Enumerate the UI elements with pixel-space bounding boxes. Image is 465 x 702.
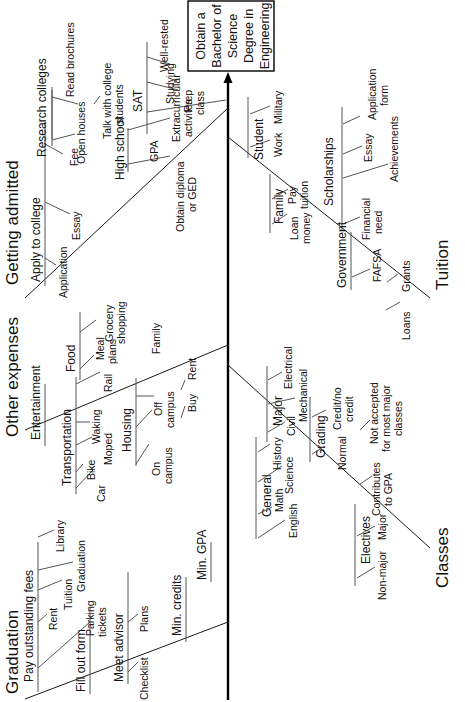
leaf-loan-line-2: money — [300, 212, 312, 244]
arrow-head-icon — [224, 72, 233, 83]
leaf-non-major: Non-major — [376, 550, 388, 600]
cause-min-credits: Min. credits — [170, 575, 184, 636]
cause-food: Food — [64, 345, 78, 372]
leaf-checklist: Checklist — [138, 657, 150, 700]
category-label: Other expenses — [3, 317, 22, 437]
leaf-history: History — [271, 437, 283, 470]
leaf-studying: Studying — [164, 63, 176, 104]
cause-fill-out-form: Fill out form — [74, 629, 88, 692]
cause-student: Student — [252, 118, 266, 160]
cause-electives: Electives — [359, 516, 373, 564]
leaf-buy: Buy — [186, 393, 198, 412]
leaf-loan-money: Loan — [288, 216, 300, 240]
leaf-grocery-line-2: shopping — [115, 301, 127, 344]
leaf-military: Military — [272, 90, 284, 124]
cause-meet-advisor: Meet advisor — [112, 613, 126, 682]
leaf-plans: Plans — [138, 606, 150, 632]
cause-apply-to-college: Apply to college — [29, 197, 43, 282]
cause-family-tuition: Family — [272, 189, 286, 224]
leaf-essay-scholarship: Essay — [362, 133, 374, 162]
category-graduation: Graduation Pay outstanding fees Parking … — [3, 519, 228, 700]
category-label: Classes — [433, 528, 452, 588]
leaf-fafsa: FAFSA — [371, 249, 383, 282]
leaf-family-housing: Family — [150, 322, 162, 354]
leaf-not-accepted: Not accepted — [368, 382, 380, 444]
leaf-parking-line-2: tickets — [96, 607, 108, 637]
leaf-library: Library — [54, 519, 66, 552]
fishbone-diagram: Obtain a Bachelor of Science Degree in E… — [0, 0, 465, 702]
goal-box: Obtain a Bachelor of Science Degree in E… — [188, 1, 274, 71]
leaf-gpa: GPA — [148, 141, 160, 162]
leaf-english: English — [287, 503, 299, 538]
leaf-pay-tuition: Pay — [286, 185, 298, 204]
leaf-tuition-graduation: Tuition — [62, 579, 74, 610]
leaf-achievements: Achievements — [388, 116, 400, 182]
spine — [224, 72, 233, 700]
cause-transportation: Transportation — [60, 409, 74, 486]
cause-high-school: High school — [113, 117, 127, 180]
leaf-walking: Waking — [90, 409, 102, 444]
leaf-rail: Rail — [102, 374, 114, 392]
leaf-application: Application — [57, 246, 69, 298]
leaf-graduation-fee: Graduation — [75, 540, 87, 592]
cause-research-colleges: Research colleges — [35, 58, 49, 157]
leaf-car: Car — [95, 485, 107, 502]
leaf-bike: Bike — [85, 459, 97, 480]
leaf-civil: Civil — [285, 416, 297, 436]
leaf-read-brochures: Read brochures — [64, 22, 76, 97]
leaf-work: Work — [272, 132, 284, 157]
cause-government: Government — [335, 221, 349, 288]
cause-sat: SAT — [131, 89, 145, 112]
leaf-notacc-line-2: for most major — [380, 384, 392, 452]
leaf-normal: Normal — [336, 436, 348, 470]
leaf-contrib-line-2: to GPA — [382, 473, 394, 506]
leaf-science: Science — [283, 456, 295, 494]
category-classes: Classes Major Civil Mechanical Electrica… — [228, 346, 452, 600]
goal-line-5: Engineering — [258, 3, 272, 70]
leaf-on-line-2: campus — [162, 447, 174, 484]
leaf-mechanical: Mechanical — [297, 369, 309, 422]
leaf-rent-graduation: Rent — [47, 608, 59, 630]
category-label: Getting admitted — [3, 160, 22, 285]
leaf-off-line-2: campus — [164, 391, 176, 428]
leaf-financial-line-2: need — [372, 210, 384, 234]
goal-line-3: Science — [226, 14, 240, 59]
leaf-moped: Moped — [102, 433, 114, 465]
cause-pay-outstanding-fees: Pay outstanding fees — [22, 570, 36, 682]
category-label: Graduation — [3, 610, 22, 694]
leaf-financial-need: Financial — [360, 198, 372, 240]
category-label: Tuition — [433, 240, 452, 290]
leaf-pay-line-2: tuition — [298, 181, 310, 209]
leaf-obtain-line-2: or GED — [186, 177, 198, 212]
goal-line-4: Degree in — [242, 9, 256, 63]
leaf-rent-housing: Rent — [186, 358, 198, 380]
leaf-application-form: Application — [366, 68, 378, 120]
leaf-appform-line-2: form — [378, 85, 390, 106]
leaf-grants: Grants — [400, 260, 412, 292]
goal-line-2: Bachelor of — [210, 4, 224, 68]
leaf-grocery-shopping: Grocery — [103, 304, 115, 342]
leaf-talk-with-college-students: Talk with college — [101, 62, 113, 139]
goal-line-1: Obtain a — [194, 12, 208, 59]
leaf-credit-no-credit: Credit/no — [331, 387, 343, 430]
cause-scholarships: Scholarships — [322, 137, 336, 206]
cause-entertainment: Entertainment — [29, 365, 43, 440]
leaf-credit-line-2: credit — [343, 396, 355, 422]
cause-housing: Housing — [120, 408, 134, 452]
category-other-expenses: Other expenses Entertainment Food Meal p… — [3, 301, 228, 502]
leaf-notacc-line-3: classes — [392, 401, 404, 436]
cause-min-gpa: Min. GPA — [195, 530, 209, 580]
leaf-loans: Loans — [400, 311, 412, 340]
leaf-off-campus: Off — [152, 402, 164, 416]
leaf-open-houses: Open houses — [75, 102, 87, 164]
leaf-on-campus: On — [150, 462, 162, 476]
leaf-prep-class: Prep — [182, 90, 194, 112]
leaf-contributes-to-gpa: Contributes — [370, 462, 382, 516]
cause-general: General — [260, 474, 274, 517]
leaf-major-elective: Major — [376, 513, 388, 540]
leaf-essay: Essay — [70, 211, 82, 240]
leaf-prep-line-2: class — [194, 91, 206, 115]
leaf-obtain-diploma: Obtain diploma — [174, 161, 186, 232]
leaf-electrical: Electrical — [282, 346, 294, 389]
category-tuition: Tuition Student Work Military Family Loa… — [228, 68, 452, 340]
